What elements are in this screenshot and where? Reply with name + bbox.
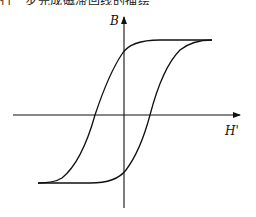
ascending-branch (38, 40, 212, 183)
h-axis-label: H' (224, 124, 239, 138)
descending-branch (38, 40, 212, 183)
b-axis-label: B (109, 14, 119, 28)
hysteresis-diagram: B H' (0, 0, 256, 217)
